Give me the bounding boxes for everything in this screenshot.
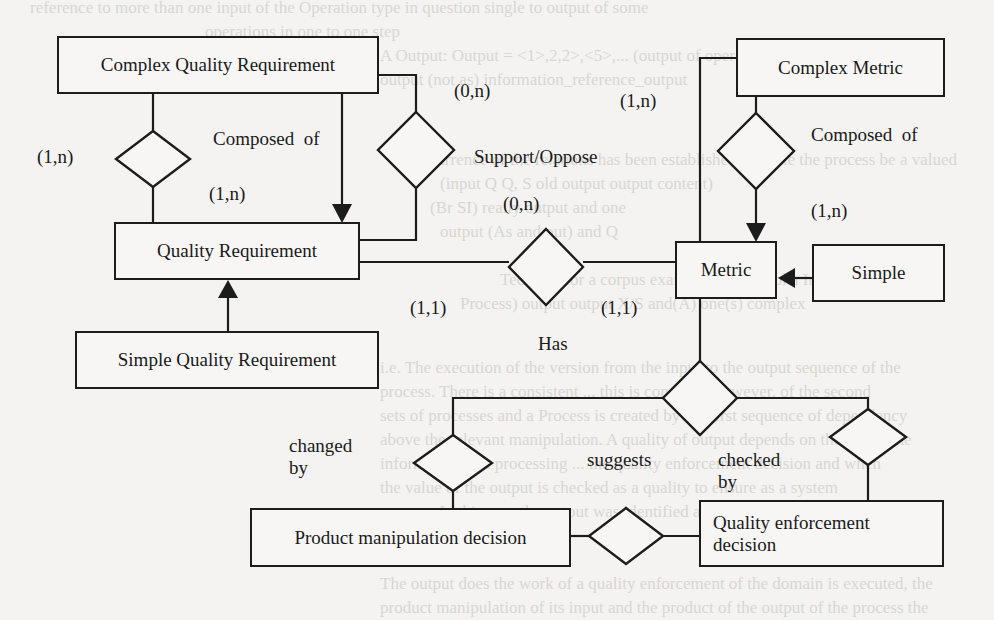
arrowhead-down-icon: [746, 223, 766, 242]
relationship-diamond-central-decision: [663, 361, 737, 435]
arrowhead-left-icon: [778, 268, 795, 288]
label-card-qr-support: (0,n): [503, 193, 539, 215]
entity-complex-quality-requirement: Complex Quality Requirement: [57, 36, 379, 94]
entity-simple-quality-requirement: Simple Quality Requirement: [75, 331, 379, 389]
entity-label: Simple Quality Requirement: [118, 349, 336, 371]
label-card-qr-has: (1,1): [410, 297, 446, 319]
label-card-metric-has: (1,1): [601, 297, 637, 319]
relationship-diamond-support-oppose: [378, 112, 454, 188]
label-card-metric-composed: (1,n): [811, 200, 847, 222]
label-card-cqr-left: (1,n): [37, 146, 73, 168]
label-has-label: Has: [538, 333, 568, 355]
entity-quality-enforcement-decision: Quality enforcement decision: [699, 500, 944, 567]
entity-label: Metric: [701, 259, 752, 281]
line-support-to-qr: [360, 188, 416, 240]
entity-product-manipulation-decision: Product manipulation decision: [250, 508, 571, 567]
label-changed-by-label: changed by: [289, 435, 352, 479]
entity-label: Simple: [852, 262, 906, 284]
entity-label: Quality enforcement decision: [713, 512, 870, 556]
arrowhead-down-icon: [332, 204, 352, 223]
line-central-to-changed: [453, 398, 663, 435]
label-card-cm-left: (1,n): [620, 90, 656, 112]
label-checked-by-label: checked by: [718, 449, 780, 493]
arrowhead-up-icon: [218, 280, 238, 298]
entity-complex-metric: Complex Metric: [736, 38, 945, 97]
label-composed-of-right: Composed of: [811, 124, 918, 146]
entity-metric: Metric: [675, 241, 777, 299]
entity-label: Complex Quality Requirement: [101, 54, 335, 76]
relationship-diamond-composed-of-quality: [116, 131, 190, 187]
entity-label: Product manipulation decision: [294, 527, 526, 549]
relationship-diamond-has: [509, 229, 583, 305]
line-cqr-to-support: [379, 75, 416, 112]
relationship-diamond-checked-by: [830, 409, 906, 465]
label-support-oppose-label: Support/Oppose: [474, 146, 598, 168]
relationship-diamond-composed-of-metric: [718, 113, 794, 189]
line-central-to-checked: [737, 398, 868, 409]
entity-simple: Simple: [812, 244, 945, 302]
label-card-qr-composed: (1,n): [209, 183, 245, 205]
relationship-diamond-changed-by: [414, 435, 492, 491]
relationship-diamond-suggests: [589, 508, 663, 564]
entity-label: Quality Requirement: [157, 240, 317, 262]
entity-label: Complex Metric: [778, 57, 903, 79]
label-suggests-label: suggests: [587, 449, 651, 471]
label-composed-of-left: Composed of: [213, 128, 320, 150]
entity-quality-requirement: Quality Requirement: [114, 222, 360, 280]
label-card-cqr-support: (0,n): [454, 80, 490, 102]
